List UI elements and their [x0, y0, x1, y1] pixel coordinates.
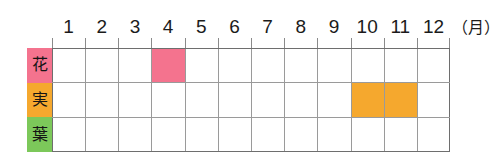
tick-0 — [52, 38, 53, 48]
cell-leaf-5 — [185, 117, 218, 152]
row-label-fruit: 実 — [27, 83, 52, 118]
cell-flower-5 — [185, 48, 218, 83]
cell-fruit-7 — [251, 83, 284, 118]
cell-leaf-2 — [85, 117, 118, 152]
tick-6 — [251, 38, 252, 48]
cell-leaf-9 — [317, 117, 350, 152]
cell-fruit-1 — [52, 83, 85, 118]
month-label-1: 1 — [52, 14, 85, 40]
cell-flower-6 — [218, 48, 251, 83]
cell-leaf-1 — [52, 117, 85, 152]
month-label-11: 11 — [384, 14, 417, 40]
cell-flower-9 — [317, 48, 350, 83]
cell-fruit-5 — [185, 83, 218, 118]
cell-leaf-12 — [417, 117, 450, 152]
cell-fruit-9 — [317, 83, 350, 118]
cell-leaf-7 — [251, 117, 284, 152]
tick-5 — [218, 38, 219, 48]
tick-9 — [351, 38, 352, 48]
cell-leaf-3 — [118, 117, 151, 152]
month-label-7: 7 — [251, 14, 284, 40]
month-label-5: 5 — [185, 14, 218, 40]
cell-leaf-4 — [152, 117, 185, 152]
cell-leaf-10 — [351, 117, 384, 152]
cell-flower-3 — [118, 48, 151, 83]
tick-12 — [449, 38, 450, 48]
cell-fruit-8 — [284, 83, 317, 118]
cell-fruit-2 — [85, 83, 118, 118]
cell-flower-4 — [152, 48, 185, 83]
tick-3 — [151, 38, 152, 48]
grid-row-leaf — [52, 117, 450, 152]
tick-4 — [185, 38, 186, 48]
row-label-column: 花 実 葉 — [27, 48, 52, 152]
cell-flower-8 — [284, 48, 317, 83]
axis-unit-label: （月） — [452, 15, 490, 41]
cell-leaf-6 — [218, 117, 251, 152]
row-label-flower: 花 — [27, 48, 52, 83]
cell-fruit-6 — [218, 83, 251, 118]
month-tick-row — [52, 38, 450, 48]
cell-leaf-8 — [284, 117, 317, 152]
cell-flower-12 — [417, 48, 450, 83]
tick-1 — [85, 38, 86, 48]
grid-row-fruit — [52, 83, 450, 118]
cell-fruit-3 — [118, 83, 151, 118]
cell-fruit-11 — [384, 83, 417, 118]
tick-2 — [118, 38, 119, 48]
month-label-9: 9 — [317, 14, 350, 40]
month-label-3: 3 — [118, 14, 151, 40]
row-label-leaf: 葉 — [27, 117, 52, 152]
grid-row-flower — [52, 48, 450, 83]
calendar-grid — [52, 48, 450, 152]
tick-8 — [317, 38, 318, 48]
tick-7 — [284, 38, 285, 48]
cell-leaf-11 — [384, 117, 417, 152]
cell-flower-7 — [251, 48, 284, 83]
cell-flower-2 — [85, 48, 118, 83]
cell-flower-10 — [351, 48, 384, 83]
month-label-6: 6 — [218, 14, 251, 40]
cell-flower-1 — [52, 48, 85, 83]
cell-fruit-12 — [417, 83, 450, 118]
cell-fruit-10 — [351, 83, 384, 118]
month-header-row: 1 2 3 4 5 6 7 8 9 10 11 12 — [52, 14, 450, 40]
seasonal-calendar-chart: 1 2 3 4 5 6 7 8 9 10 11 12 （月） 花 実 葉 — [0, 0, 490, 167]
cell-flower-11 — [384, 48, 417, 83]
month-label-8: 8 — [284, 14, 317, 40]
month-label-10: 10 — [351, 14, 384, 40]
month-label-12: 12 — [417, 14, 450, 40]
tick-11 — [417, 38, 418, 48]
month-label-2: 2 — [85, 14, 118, 40]
month-label-4: 4 — [152, 14, 185, 40]
tick-10 — [384, 38, 385, 48]
cell-fruit-4 — [152, 83, 185, 118]
